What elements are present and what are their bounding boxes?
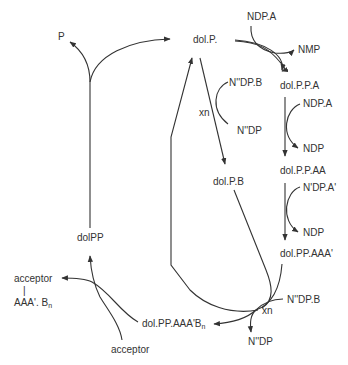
ndpaprime-to-ndp-arrow bbox=[286, 187, 300, 232]
dolpb-label: dol.P.B bbox=[213, 176, 244, 187]
junction-to-dolppaaabn-arrow bbox=[214, 310, 256, 324]
ndpa-to-ndp-arrow bbox=[286, 104, 300, 148]
xn-label-1: xn bbox=[199, 107, 210, 118]
dolpp-label: dolPP bbox=[77, 232, 104, 243]
nmp-label: NMP bbox=[298, 44, 320, 55]
acceptor-top-label: acceptor bbox=[14, 273, 52, 284]
acceptor-bond: | bbox=[23, 285, 26, 296]
ndp-label-2: NDP bbox=[303, 227, 324, 238]
p-label: P bbox=[58, 31, 65, 42]
dolppaaabn-to-acceptor-product-arrow bbox=[62, 278, 138, 322]
nddpb-label-1: N''DP.B bbox=[229, 77, 262, 88]
ndpa-to-nmp-arrow bbox=[251, 26, 294, 53]
branch-to-p-arrow bbox=[70, 42, 90, 82]
dolppaaa-label: dol.PP.AAA' bbox=[280, 248, 333, 259]
ndp-label-1: NDP bbox=[303, 143, 324, 154]
branch-to-dolp-arrow bbox=[90, 39, 170, 82]
dolppaaa-to-junction-line bbox=[256, 264, 282, 310]
dolppa-label: dol.P.P.A bbox=[280, 80, 319, 91]
dolp-label: dol.P. bbox=[193, 34, 217, 45]
xn-label-2: xn bbox=[262, 305, 273, 316]
ndpa-label-2: NDP.A bbox=[303, 98, 332, 109]
nddp-label-1: N''DP bbox=[237, 125, 262, 136]
dolppaaabn-label: dol.PP.AAA'Bn bbox=[142, 318, 205, 332]
ndpa-label-1: NDP.A bbox=[247, 11, 276, 22]
nddp-label-2: N''DP bbox=[248, 336, 273, 347]
dolpb-to-junction-line bbox=[234, 190, 271, 308]
dolppaa-label: dol.P.P.AA bbox=[280, 165, 326, 176]
ndpaprime-label: N'DP.A' bbox=[303, 182, 336, 193]
nddpb-label-2: N''DP.B bbox=[287, 294, 320, 305]
pathway-arrows bbox=[0, 0, 348, 365]
acceptor-bottom-label: acceptor bbox=[111, 344, 149, 355]
acceptor-to-dolpp-arrow bbox=[90, 256, 122, 340]
nddpb-to-nddp-curve-1 bbox=[216, 82, 228, 124]
acceptor-product-label: AAA'. Bn bbox=[14, 297, 52, 311]
dolp-to-dolppa-arrow bbox=[235, 41, 284, 71]
